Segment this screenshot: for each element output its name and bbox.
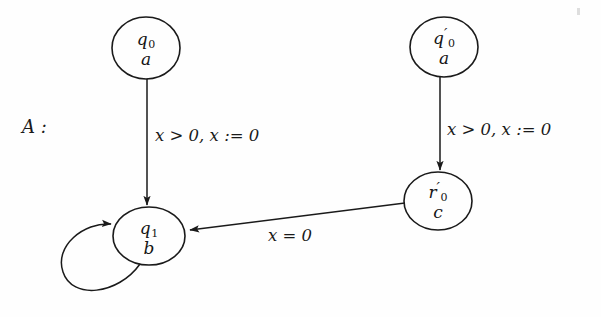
state-label-q0-prime: q′0 a <box>414 27 474 68</box>
state-invariant-q0: a <box>116 51 176 69</box>
automaton-name-label: A : <box>22 116 47 137</box>
state-location-r0-prime: r <box>428 182 436 202</box>
state-invariant-q1: b <box>119 240 179 258</box>
state-label-r0-prime: r′0 c <box>408 181 468 222</box>
state-invariant-r0-prime: c <box>408 204 468 222</box>
state-location-q0: q <box>137 29 148 49</box>
state-invariant-q0-prime: a <box>414 50 474 68</box>
transition-label-q0prime-to-r0prime: x > 0, x := 0 <box>447 120 551 139</box>
state-label-q0: q0 a <box>116 28 176 69</box>
scan-artifact-speck <box>577 8 580 15</box>
transition-label-r0prime-to-q1: x = 0 <box>268 226 312 245</box>
diagram-vector-layer <box>0 0 601 317</box>
transition-label-q0-to-q1: x > 0, x := 0 <box>155 126 259 145</box>
automaton-diagram: q0 a q′0 a q1 b r′0 c A : x > 0, x := 0 … <box>0 0 601 317</box>
state-location-q0-prime: q <box>433 28 444 48</box>
state-location-q1: q <box>140 218 151 238</box>
state-label-q1: q1 b <box>119 217 179 258</box>
